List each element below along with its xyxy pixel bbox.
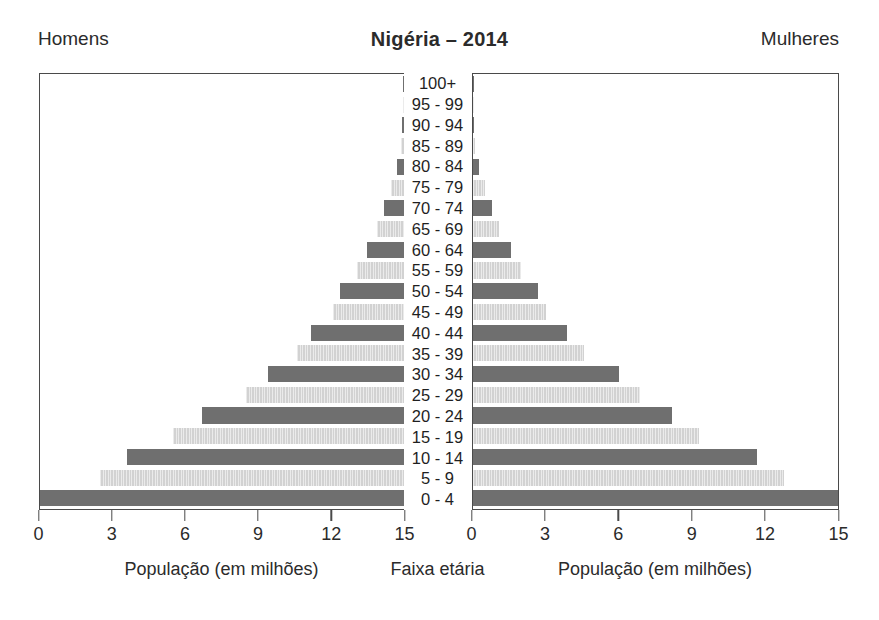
bar-row bbox=[473, 115, 838, 136]
axis-tick-label-women: 3 bbox=[540, 523, 550, 545]
x-axis-men: 15129630 bbox=[39, 510, 405, 550]
age-group-label: 100+ bbox=[404, 73, 471, 94]
axis-tick-label-men: 9 bbox=[253, 523, 263, 545]
age-group-label: 5 - 9 bbox=[404, 468, 471, 489]
population-pyramid-figure: Homens Nigéria – 2014 Mulheres 100+95 - … bbox=[0, 0, 879, 620]
bar-men-60-64 bbox=[367, 242, 403, 258]
plot-area-women bbox=[472, 73, 839, 510]
bar-women-0-4 bbox=[473, 490, 838, 506]
bar-women-45-49 bbox=[473, 304, 546, 320]
bar-women-75-79 bbox=[473, 180, 485, 196]
bar-row bbox=[473, 74, 838, 95]
bar-row bbox=[40, 385, 404, 406]
bar-row bbox=[40, 364, 404, 385]
bar-row bbox=[40, 447, 404, 468]
age-group-label: 65 - 69 bbox=[404, 219, 471, 240]
age-group-label: 90 - 94 bbox=[404, 115, 471, 136]
age-group-label: 35 - 39 bbox=[404, 344, 471, 365]
y-axis-label-age: Faixa etária bbox=[390, 557, 484, 581]
bar-row bbox=[40, 136, 404, 157]
axis-tick-label-women: 15 bbox=[828, 523, 848, 545]
axis-tick-label-women: 6 bbox=[613, 523, 623, 545]
bar-row bbox=[473, 468, 838, 489]
bar-men-0-4 bbox=[40, 490, 404, 506]
age-group-label: 85 - 89 bbox=[404, 136, 471, 157]
bar-women-100+ bbox=[473, 76, 474, 92]
bar-row bbox=[473, 302, 838, 323]
chart-title: Nigéria – 2014 bbox=[0, 28, 879, 50]
bar-women-40-44 bbox=[473, 325, 568, 341]
x-axis-label-women: População (em milhões) bbox=[558, 557, 752, 581]
axis-tick bbox=[838, 510, 839, 521]
age-group-label: 55 - 59 bbox=[404, 260, 471, 281]
bar-row bbox=[40, 74, 404, 95]
age-group-label: 15 - 19 bbox=[404, 427, 471, 448]
bar-row bbox=[473, 323, 838, 344]
axis-tick-label-men: 6 bbox=[180, 523, 190, 545]
axis-tick bbox=[544, 510, 545, 521]
age-group-label: 75 - 79 bbox=[404, 177, 471, 198]
bar-row bbox=[473, 178, 838, 199]
bar-row bbox=[40, 260, 404, 281]
bar-women-55-59 bbox=[473, 262, 522, 278]
age-group-label: 45 - 49 bbox=[404, 302, 471, 323]
bar-men-65-69 bbox=[377, 221, 404, 237]
bar-women-95-99 bbox=[473, 97, 474, 113]
bar-men-70-74 bbox=[384, 200, 403, 216]
bar-women-85-89 bbox=[473, 138, 476, 154]
bar-row bbox=[40, 281, 404, 302]
bar-men-25-29 bbox=[246, 387, 404, 403]
bar-row bbox=[40, 468, 404, 489]
bar-row bbox=[473, 405, 838, 426]
bar-row bbox=[473, 343, 838, 364]
bar-women-35-39 bbox=[473, 345, 585, 361]
bar-men-30-34 bbox=[268, 366, 404, 382]
bar-group-women bbox=[473, 74, 838, 509]
bar-row bbox=[40, 302, 404, 323]
age-group-label: 80 - 84 bbox=[404, 156, 471, 177]
bar-row bbox=[473, 240, 838, 261]
axis-tick bbox=[38, 510, 39, 521]
age-group-label: 95 - 99 bbox=[404, 94, 471, 115]
axis-tick-label-women: 0 bbox=[466, 523, 476, 545]
bar-row bbox=[40, 219, 404, 240]
bar-row bbox=[473, 488, 838, 509]
bar-women-25-29 bbox=[473, 387, 641, 403]
age-group-label: 40 - 44 bbox=[404, 323, 471, 344]
bar-women-90-94 bbox=[473, 117, 474, 133]
bar-row bbox=[40, 426, 404, 447]
legend-label-women: Mulheres bbox=[761, 28, 839, 50]
bar-women-80-84 bbox=[473, 159, 479, 175]
axis-tick bbox=[691, 510, 692, 521]
bar-row bbox=[473, 198, 838, 219]
bar-row bbox=[473, 364, 838, 385]
age-group-label: 50 - 54 bbox=[404, 281, 471, 302]
age-group-label: 25 - 29 bbox=[404, 385, 471, 406]
bar-men-10-14 bbox=[127, 449, 404, 465]
bar-group-men bbox=[40, 74, 404, 509]
plot-area-men bbox=[39, 73, 405, 510]
bar-row bbox=[40, 198, 404, 219]
bar-men-35-39 bbox=[297, 345, 404, 361]
axis-tick bbox=[764, 510, 765, 521]
age-group-label: 0 - 4 bbox=[404, 489, 471, 510]
age-group-axis: 100+95 - 9990 - 9485 - 8980 - 8475 - 797… bbox=[404, 73, 471, 510]
bar-row bbox=[40, 157, 404, 178]
bar-men-50-54 bbox=[340, 283, 403, 299]
bar-women-60-64 bbox=[473, 242, 512, 258]
bar-row bbox=[40, 240, 404, 261]
bar-men-40-44 bbox=[311, 325, 403, 341]
bar-men-75-79 bbox=[391, 180, 403, 196]
bar-men-15-19 bbox=[173, 428, 404, 444]
bar-row bbox=[473, 385, 838, 406]
bar-row bbox=[40, 323, 404, 344]
axis-tick-label-men: 12 bbox=[321, 523, 341, 545]
bar-row bbox=[473, 426, 838, 447]
age-group-label: 60 - 64 bbox=[404, 240, 471, 261]
axis-tick bbox=[331, 510, 332, 521]
axis-tick bbox=[404, 510, 405, 521]
bar-row bbox=[40, 178, 404, 199]
bar-row bbox=[473, 447, 838, 468]
axis-tick bbox=[257, 510, 258, 521]
age-group-label: 10 - 14 bbox=[404, 448, 471, 469]
